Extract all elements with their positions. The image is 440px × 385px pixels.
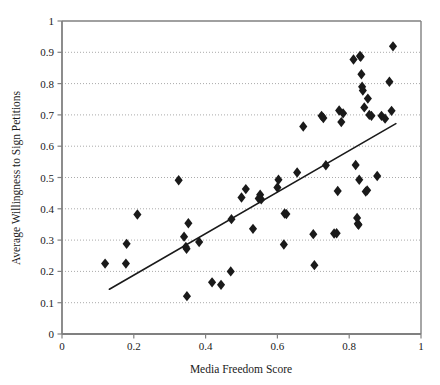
y-tick-label: 0.6 [40,140,54,152]
y-tick-label: 0.5 [40,172,54,184]
y-tick-label: 1 [49,15,55,27]
y-tick-label: 0.4 [40,203,54,215]
y-tick-label: 0 [49,328,55,340]
x-tick-label: 0.2 [127,340,141,352]
x-tick-label: 0.8 [342,340,356,352]
y-axis-title: Average Willingness to Sign Petitions [10,90,23,265]
x-axis-title: Media Freedom Score [190,363,292,375]
chart-canvas: 00.20.40.60.81 00.10.20.30.40.50.60.70.8… [0,0,440,385]
scatter-chart-figure: 00.20.40.60.81 00.10.20.30.40.50.60.70.8… [0,0,440,385]
x-tick-label: 0 [59,340,65,352]
y-tick-label: 0.1 [40,297,54,309]
y-tick-label: 0.7 [40,109,54,121]
y-tick-label: 0.3 [40,234,54,246]
chart-background [0,0,440,385]
x-tick-label: 1 [418,340,424,352]
x-tick-label: 0.4 [199,340,213,352]
y-tick-label: 0.9 [40,46,54,58]
y-tick-label: 0.2 [40,265,54,277]
y-tick-label: 0.8 [40,78,54,90]
x-tick-label: 0.6 [271,340,285,352]
